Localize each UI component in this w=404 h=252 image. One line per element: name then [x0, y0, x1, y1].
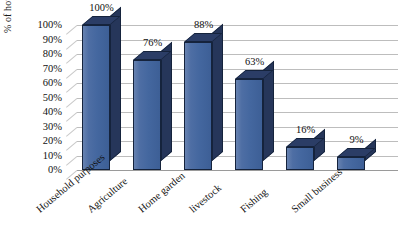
x-axis-tick-labels: Household purposesAgricultureHome garden… [0, 0, 404, 252]
x-tick-label: livestock [187, 182, 224, 216]
x-tick-label: Home garden [136, 170, 187, 216]
x-tick-label: Agriculture [85, 175, 130, 215]
x-tick-label: Small business [289, 166, 345, 216]
x-tick-label: Fishing [238, 186, 270, 215]
bar-chart: % of households 100%90%80%70%60%50%40%30… [0, 0, 404, 252]
